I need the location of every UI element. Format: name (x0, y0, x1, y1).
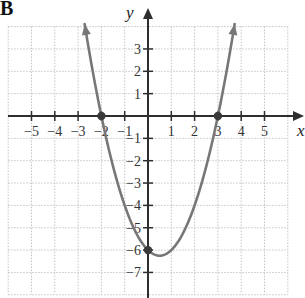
y-tick-label: −6 (126, 243, 141, 258)
y-tick-label: −3 (126, 176, 141, 191)
x-tick-label: −4 (47, 124, 62, 139)
y-axis-label: y (124, 3, 134, 22)
parabola-curve (82, 24, 237, 256)
y-axis-arrow-icon (143, 8, 153, 19)
x-axis-arrow-icon (293, 111, 304, 121)
curve-arrow-left-icon (82, 24, 91, 36)
x-tick-label: −5 (24, 124, 39, 139)
x-intercept-point (214, 112, 222, 120)
y-tick-label: −4 (126, 198, 141, 213)
x-tick-label: 2 (191, 124, 198, 139)
x-tick-label: 4 (238, 124, 245, 139)
y-intercept-point (144, 246, 152, 254)
parabola-path (85, 24, 235, 256)
y-tick-label: −1 (126, 131, 141, 146)
x-intercept-point (97, 112, 105, 120)
y-tick-label: 1 (134, 87, 141, 102)
curve-arrow-right-icon (228, 24, 237, 36)
parabola-graph: −5−4−3−2−112345321−1−2−3−4−5−6−7 x y (0, 0, 305, 298)
y-tick-label: −2 (126, 154, 141, 169)
y-tick-label: 3 (134, 42, 141, 57)
x-tick-label: −3 (71, 124, 86, 139)
x-tick-label: 5 (261, 124, 268, 139)
x-axis-label: x (296, 121, 305, 140)
y-tick-label: 2 (134, 64, 141, 79)
x-tick-label: 1 (168, 124, 175, 139)
y-tick-label: −7 (126, 265, 141, 280)
